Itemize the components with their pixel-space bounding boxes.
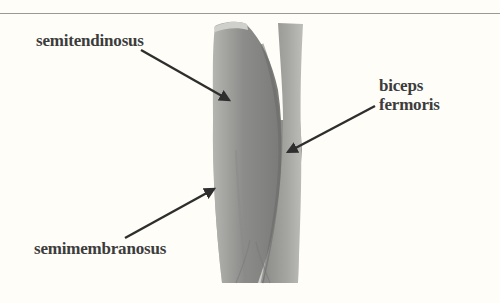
semimembranosus-pointer <box>125 189 214 238</box>
anatomy-figure: semitendinosus biceps fermoris semimembr… <box>0 0 500 303</box>
label-semimembranosus: semimembranosus <box>34 239 166 258</box>
label-biceps-line-1: biceps <box>379 76 440 95</box>
label-biceps-line-2: fermoris <box>379 95 440 114</box>
biceps-femoris-pointer <box>288 106 375 152</box>
label-biceps-femoris: biceps fermoris <box>379 76 440 114</box>
label-semitendinosus: semitendinosus <box>36 31 144 50</box>
